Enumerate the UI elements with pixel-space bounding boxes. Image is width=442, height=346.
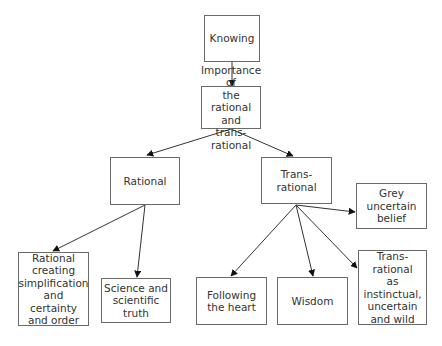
node-rational-creating-simplification: Rational creating simplification and cer… [18,252,89,326]
arrow-trans_rational-to-instinctual [296,205,357,268]
node-science-and-scientific-truth: Science and scientific truth [101,278,171,323]
node-rational: Rational [110,157,180,205]
node-trans-rational: Trans-rational [261,157,332,204]
node-importance-of-rational-and-trans-rational: Importance of the rational and trans-rat… [201,86,261,129]
diagram-canvas: Knowing Importance of the rational and t… [0,0,442,346]
arrow-trans_rational-to-grey [296,205,355,212]
arrow-rational-to-science [137,205,145,277]
node-knowing: Knowing [204,15,260,62]
arrow-trans_rational-to-wisdom [296,205,313,276]
node-grey-uncertain-belief: Grey uncertain belief [356,183,427,229]
node-wisdom: Wisdom [277,277,348,325]
arrow-trans_rational-to-following [231,205,296,276]
node-following-the-heart: Following the heart [196,277,267,325]
node-trans-rational-as-instinctual: Trans-rational as instinctual, uncertain… [358,250,427,325]
arrow-rational-to-rational_creating [53,205,145,251]
